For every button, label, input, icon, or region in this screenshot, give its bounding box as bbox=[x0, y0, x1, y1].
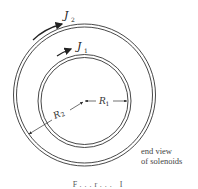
r1-dimension: R 1 bbox=[85, 96, 127, 107]
j2-subscript: 2 bbox=[71, 16, 75, 23]
note-line-1: end view bbox=[141, 146, 182, 156]
j1-subscript: 1 bbox=[84, 47, 88, 54]
j1-arrow-icon bbox=[57, 49, 71, 56]
j1-label: J bbox=[75, 40, 82, 53]
end-view-note: end view of solenoids bbox=[141, 146, 182, 166]
r2-dimension: R 2 bbox=[29, 102, 83, 134]
figure-caption: F...r... I bbox=[0, 180, 198, 189]
j2-label: J bbox=[62, 9, 69, 22]
note-line-2: of solenoids bbox=[141, 156, 182, 166]
r1-subscript: 1 bbox=[106, 100, 110, 107]
